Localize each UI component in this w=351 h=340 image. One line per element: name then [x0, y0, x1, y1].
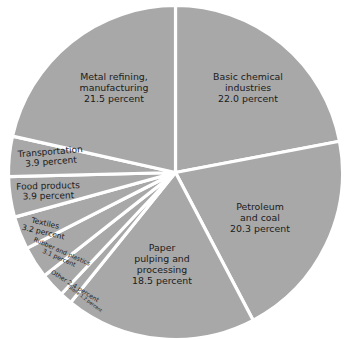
- pie-chart: Basic chemical industries 22.0 percent M…: [0, 0, 351, 340]
- pie-slices-group: [8, 6, 342, 340]
- pie-chart-svg: [0, 0, 351, 340]
